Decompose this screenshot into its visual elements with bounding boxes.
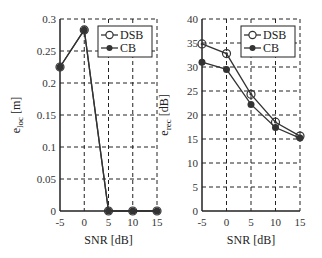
marker-filled-circle	[57, 64, 64, 71]
y-tick-label: 30	[187, 61, 199, 73]
x-tick-label: 15	[295, 216, 307, 228]
legend-open-circle-icon	[106, 31, 113, 38]
legend-label: DSB	[120, 28, 143, 42]
y-tick-label: 20	[187, 109, 199, 121]
y-tick-label: 0	[193, 205, 199, 217]
chart-panel-2: -50510150510152025303540DSBCBSNR [dB]ere…	[157, 13, 306, 247]
legend-label: CB	[263, 41, 279, 55]
marker-dot	[225, 52, 228, 55]
x-tick-label: 5	[106, 216, 112, 228]
chart-panel-1: -505101500.050.10.150.20.250.3DSBCBSNR […	[9, 13, 163, 247]
marker-filled-circle	[199, 59, 206, 66]
x-axis-label: SNR [dB]	[84, 233, 132, 247]
x-tick-label: 10	[127, 216, 139, 228]
y-tick-label: 0.2	[42, 77, 56, 89]
legend-label: DSB	[263, 28, 286, 42]
y-tick-label: 35	[187, 37, 199, 49]
figure: -505101500.050.10.150.20.250.3DSBCBSNR […	[0, 0, 322, 258]
x-tick-label: 10	[270, 216, 282, 228]
x-axis-label: SNR [dB]	[227, 233, 275, 247]
y-tick-label: 0	[51, 205, 57, 217]
legend-filled-circle-icon	[107, 45, 113, 51]
x-tick-label: 0	[82, 216, 88, 228]
y-tick-label: 25	[187, 85, 199, 97]
y-tick-label: 0.15	[37, 109, 57, 121]
legend: DSBCB	[241, 26, 295, 57]
marker-filled-circle	[105, 208, 112, 215]
marker-filled-circle	[154, 208, 161, 215]
x-tick-label: 15	[152, 216, 164, 228]
marker-dot	[274, 121, 277, 124]
x-tick-label: 0	[224, 216, 230, 228]
y-axis-label: erec [dB]	[157, 94, 173, 135]
legend-label: CB	[120, 41, 136, 55]
y-axis-label: eloc [m]	[9, 97, 25, 134]
y-tick-label: 40	[187, 13, 199, 25]
marker-dot	[201, 43, 204, 46]
x-tick-label: -5	[197, 216, 207, 228]
y-tick-label: 0.1	[42, 141, 56, 153]
x-tick-label: 5	[248, 216, 254, 228]
y-tick-label: 0.25	[37, 45, 57, 57]
marker-filled-circle	[81, 26, 88, 33]
y-tick-label: 15	[187, 133, 199, 145]
y-tick-label: 10	[187, 157, 199, 169]
marker-filled-circle	[297, 135, 304, 142]
marker-filled-circle	[223, 66, 230, 73]
marker-dot	[250, 93, 253, 96]
y-tick-label: 5	[193, 181, 199, 193]
legend-filled-circle-icon	[250, 45, 256, 51]
marker-filled-circle	[129, 208, 136, 215]
y-tick-label: 0.3	[42, 13, 56, 25]
legend: DSBCB	[98, 26, 152, 57]
marker-filled-circle	[248, 101, 255, 108]
legend-open-circle-icon	[249, 31, 256, 38]
y-tick-label: 0.05	[37, 173, 57, 185]
x-tick-label: -5	[55, 216, 65, 228]
marker-filled-circle	[272, 124, 279, 131]
